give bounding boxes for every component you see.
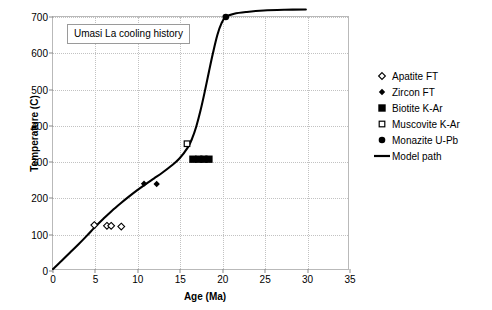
y-tick-label: 200 — [31, 193, 48, 204]
legend-item-label: Zircon FT — [390, 87, 435, 98]
x-tick-mark — [95, 269, 96, 273]
data-point-filled-diamond — [153, 181, 159, 187]
data-point-markers — [91, 14, 229, 230]
x-tick-label: 35 — [344, 274, 355, 285]
legend-item-label: Biotite K-Ar — [390, 103, 443, 114]
data-layer — [53, 17, 348, 269]
legend-item-label: Monazite U-Pb — [390, 135, 458, 146]
x-tick-label: 5 — [93, 274, 99, 285]
y-tick-label: 0 — [42, 266, 48, 277]
legend-item[interactable]: Model path — [374, 148, 482, 164]
y-tick-label: 300 — [31, 157, 48, 168]
open-square-glyph — [379, 121, 385, 127]
data-point-open-diamond — [108, 222, 115, 229]
y-tick-label: 700 — [31, 12, 48, 23]
filled-circle-glyph — [379, 137, 386, 144]
legend-item[interactable]: Monazite U-Pb — [374, 132, 482, 148]
legend-item[interactable]: Zircon FT — [374, 84, 482, 100]
legend-item-label: Model path — [390, 151, 441, 162]
legend-item-label: Muscovite K-Ar — [390, 119, 460, 130]
model-path-curve — [53, 9, 306, 269]
data-point-filled-circle — [223, 14, 230, 21]
y-tick-label: 600 — [31, 48, 48, 59]
legend-item[interactable]: Muscovite K-Ar — [374, 116, 482, 132]
x-tick-label: 20 — [217, 274, 228, 285]
x-tick-mark — [350, 269, 351, 273]
line-icon — [374, 150, 390, 162]
filled-diamond-glyph — [379, 89, 385, 95]
chart-legend: Apatite FTZircon FTBiotite K-ArMuscovite… — [368, 62, 486, 170]
data-point-open-square — [184, 141, 190, 147]
y-tick-label: 500 — [31, 84, 48, 95]
data-point-open-diamond — [118, 223, 125, 230]
x-tick-mark — [265, 269, 266, 273]
open-diamond-icon — [374, 70, 390, 82]
legend-item-label: Apatite FT — [390, 71, 438, 82]
x-tick-label: 25 — [260, 274, 271, 285]
x-tick-label: 0 — [50, 274, 56, 285]
x-tick-mark — [137, 269, 138, 273]
filled-diamond-icon — [374, 86, 390, 98]
x-tick-label: 30 — [302, 274, 313, 285]
legend-item[interactable]: Biotite K-Ar — [374, 100, 482, 116]
x-axis-label: Age (Ma) — [50, 291, 360, 302]
filled-square-glyph — [378, 104, 385, 111]
y-tick-label: 400 — [31, 120, 48, 131]
open-diamond-glyph — [379, 73, 386, 80]
x-tick-label: 15 — [175, 274, 186, 285]
chart-title: Umasi La cooling history — [67, 24, 190, 44]
x-tick-mark — [307, 269, 308, 273]
x-tick-mark — [180, 269, 181, 273]
plot-area: 0100200300400500600700 05101520253035 Um… — [52, 16, 349, 270]
x-tick-mark — [222, 269, 223, 273]
y-tick-label: 100 — [31, 229, 48, 240]
filled-circle-icon — [374, 134, 390, 146]
data-point-open-diamond — [91, 222, 98, 229]
cooling-history-figure: Temperature (C) Age (Ma) 010020030040050… — [0, 0, 492, 310]
x-tick-label: 10 — [132, 274, 143, 285]
open-square-icon — [374, 118, 390, 130]
y-axis-label: Temperature (C) — [29, 54, 40, 214]
legend-item[interactable]: Apatite FT — [374, 68, 482, 84]
data-point-filled-square — [205, 156, 212, 163]
filled-square-icon — [374, 102, 390, 114]
